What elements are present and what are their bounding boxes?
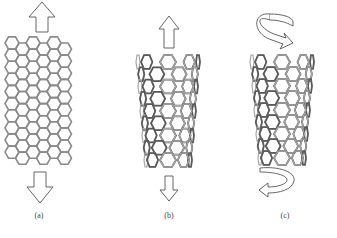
nanotube-lattice [250,55,314,165]
panel-b: (b) [112,0,224,238]
graphene-sheet-lattice [5,37,72,164]
panel-c: (c) [224,0,337,238]
panel-a: (a) [0,0,112,238]
panel-b-graphic [112,0,224,238]
torsion-arrow-bottom-icon [259,168,294,197]
panel-a-graphic [0,0,112,238]
panel-label-a: (a) [24,211,54,220]
tension-arrow-down-icon [27,172,53,203]
torsion-arrow-top-icon [257,14,293,49]
tension-arrow-down-icon [160,176,178,201]
tension-arrow-up-icon [29,2,55,32]
panel-label-c: (c) [270,211,300,220]
panel-c-graphic [224,0,337,238]
panel-label-b: (b) [154,211,184,220]
tension-arrow-up-icon [159,16,179,48]
nanotube-lattice [136,55,200,167]
